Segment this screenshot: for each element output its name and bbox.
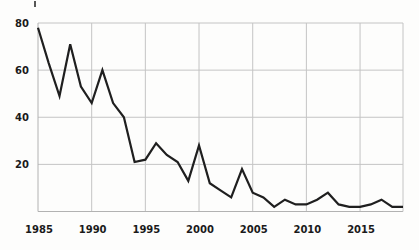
x-tick-label-1990: 1990 [79, 224, 107, 235]
x-tick-label-2005: 2005 [240, 224, 268, 235]
x-tick-label-1985: 1985 [25, 224, 53, 235]
line-chart-canvas: 204060801985199019952000200520102015 [0, 0, 419, 250]
y-tick-label-60: 60 [15, 65, 29, 76]
x-tick-label-2015: 2015 [347, 224, 375, 235]
y-tick-label-40: 40 [15, 112, 29, 123]
line-chart-figure: 204060801985199019952000200520102015 [0, 0, 419, 250]
x-tick-label-2010: 2010 [293, 224, 321, 235]
y-tick-label-20: 20 [15, 159, 29, 170]
x-tick-label-2000: 2000 [186, 224, 214, 235]
y-tick-label-80: 80 [15, 18, 29, 29]
x-tick-label-1995: 1995 [132, 224, 160, 235]
